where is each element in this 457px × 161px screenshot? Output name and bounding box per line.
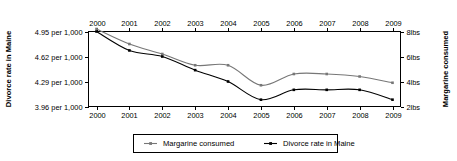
x-tick-label-bottom: 2001 [121,111,137,120]
legend-label: Margarine consumed [163,139,234,148]
data-point-marker [391,98,394,101]
x-tick-label-bottom: 2000 [89,111,105,120]
legend-marker [269,142,272,145]
x-tick-label-bottom: 2004 [220,111,236,120]
x-tick-label-top: 2008 [352,19,368,28]
y-axis-title-right: Margarine consumed [441,30,450,107]
x-tick-label-top: 2009 [385,19,401,28]
data-point-marker [325,89,328,92]
plot-frame [88,31,401,107]
data-point-marker [95,30,98,33]
y-axis-labels-right: 8lbs6lbs4lbs2lbs [407,28,421,112]
y-tick-label-left: 3.96 per 1,000 [35,103,83,112]
x-tick-label-bottom: 2002 [154,111,170,120]
x-tick-label-top: 2007 [319,19,335,28]
y-tick-label-right: 2lbs [407,103,421,112]
data-point-marker [293,89,296,92]
data-point-marker [325,73,328,76]
data-point-marker [260,98,263,101]
y-axis-title-left: Divorce rate in Maine [4,31,13,107]
x-tick-label-bottom: 2009 [385,111,401,120]
data-point-marker [391,81,394,84]
series-divorce-rate-in-maine [95,30,394,101]
data-point-marker [358,89,361,92]
data-point-marker [128,49,131,52]
x-tick-label-top: 2003 [187,19,203,28]
x-tick-label-top: 2002 [154,19,170,28]
data-point-marker [128,43,131,46]
dual-axis-line-chart: 2000200120022003200420052006200720082009… [0,0,457,161]
y-tick-label-left: 4.29 per 1,000 [35,78,83,87]
x-axis-ticks-top [98,28,394,32]
data-point-marker [293,73,296,76]
y-tick-label-left: 4.62 per 1,000 [35,53,83,62]
y-tick-label-right: 8lbs [407,28,421,37]
x-axis-labels-top: 2000200120022003200420052006200720082009 [89,19,401,28]
series-layer [95,28,394,101]
x-tick-label-top: 2000 [89,19,105,28]
data-point-marker [194,69,197,72]
x-tick-label-bottom: 2008 [352,111,368,120]
y-tick-label-right: 6lbs [407,53,421,62]
data-point-marker [161,53,164,56]
data-point-marker [95,28,98,31]
x-axis-labels-bottom: 2000200120022003200420052006200720082009 [89,111,401,120]
y-tick-label-right: 4lbs [407,78,421,87]
x-tick-label-top: 2005 [253,19,269,28]
x-tick-label-bottom: 2005 [253,111,269,120]
x-tick-label-bottom: 2006 [286,111,302,120]
data-point-marker [227,64,230,67]
y-tick-label-left: 4.95 per 1,000 [35,28,83,37]
x-tick-label-top: 2006 [286,19,302,28]
y-axis-labels-left: 4.95 per 1,0004.62 per 1,0004.29 per 1,0… [35,28,83,112]
chart-container: 2000200120022003200420052006200720082009… [0,0,457,161]
series-line [97,29,393,85]
x-tick-label-bottom: 2007 [319,111,335,120]
y-axis-ticks-left [85,33,89,108]
data-point-marker [358,75,361,78]
legend-marker [149,142,152,145]
y-axis-ticks-right [401,33,405,108]
data-point-marker [161,55,164,58]
x-tick-label-top: 2001 [121,19,137,28]
data-point-marker [194,64,197,67]
data-point-marker [260,84,263,87]
x-tick-label-bottom: 2003 [187,111,203,120]
series-margarine-consumed [95,28,394,87]
series-line [97,32,393,100]
legend-label: Divorce rate in Maine [283,139,355,148]
x-axis-ticks-bottom [98,107,394,111]
x-tick-label-top: 2004 [220,19,236,28]
data-point-marker [227,80,230,83]
